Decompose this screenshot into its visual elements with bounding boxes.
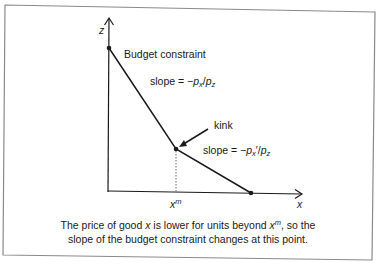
- x-axis-label: x: [296, 198, 303, 210]
- slope2-label: slope = −px′/pz: [203, 144, 271, 158]
- caption-line-2: slope of the budget constraint changes a…: [68, 233, 308, 245]
- budget-constraint-label: Budget constraint: [124, 48, 206, 60]
- kink-label: kink: [214, 119, 233, 131]
- budget-constraint-figure: z x Budget constraint slope = −px/pz kin…: [0, 0, 378, 268]
- kink-point: [174, 147, 179, 152]
- x-intercept-point: [249, 191, 254, 196]
- z-axis-label: z: [98, 24, 105, 36]
- z-intercept-point: [107, 46, 112, 51]
- slope1-label: slope = −px/pz: [150, 75, 216, 89]
